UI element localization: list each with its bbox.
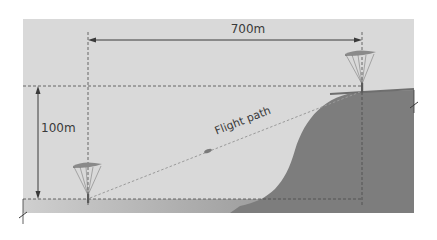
horizontal-distance-label: 700m [231, 22, 266, 36]
vertical-height-label: 100m [41, 121, 76, 135]
glide-diagram: 700m 100m Flight path [0, 0, 437, 240]
